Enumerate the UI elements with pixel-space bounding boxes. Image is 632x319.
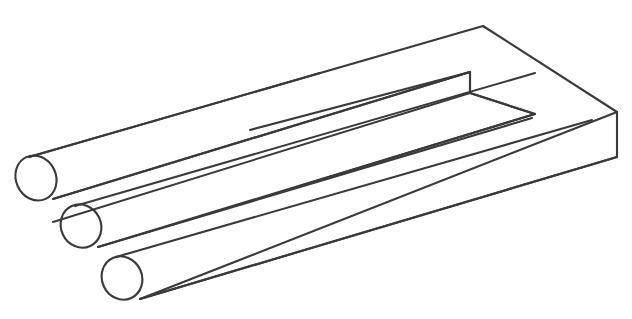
- white-fill-faces: [8, 26, 617, 306]
- figure-canvas: [0, 0, 632, 319]
- impossible-trident-drawing: [0, 0, 632, 319]
